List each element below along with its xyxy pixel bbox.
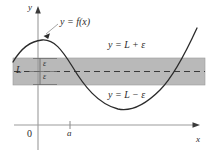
upper-bound-label: y = L + ε xyxy=(108,40,145,50)
y-axis-label: y xyxy=(28,3,32,12)
lower-bound-label: y = L − ε xyxy=(108,90,145,100)
origin-label: 0 xyxy=(27,129,32,139)
limit-value-label: L xyxy=(16,65,22,75)
function-label-arrowhead xyxy=(44,33,51,39)
y-axis-arrowhead xyxy=(35,6,41,14)
epsilon-upper-label: ε xyxy=(43,60,46,68)
limit-epsilon-diagram: y = f(x) y = L + ε y = L − ε y x 0 a L ε… xyxy=(0,0,212,160)
x-axis-label: x xyxy=(196,135,200,144)
epsilon-lower-label: ε xyxy=(43,73,46,81)
a-tick-label: a xyxy=(67,129,72,138)
x-axis-arrowhead xyxy=(193,122,201,128)
function-label-leader-line xyxy=(46,24,58,34)
function-label: y = f(x) xyxy=(60,17,90,27)
